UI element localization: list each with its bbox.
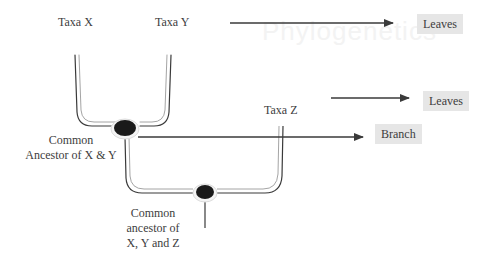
xy-ancestor-label: Common Ancestor of X & Y	[22, 133, 120, 163]
xy-clade-branches	[75, 55, 171, 126]
leaves-tag-mid: Leaves	[423, 91, 469, 111]
xyz-ancestor-label-line2: ancestor of	[118, 221, 188, 236]
taxa-x-label: Taxa X	[58, 15, 93, 30]
xy-to-xyz-branch	[125, 137, 193, 193]
xy-ancestor-label-line2: Ancestor of X & Y	[22, 148, 120, 163]
taxa-y-label: Taxa Y	[155, 15, 189, 30]
branch-tag: Branch	[375, 124, 422, 144]
leaves-tag-top: Leaves	[417, 14, 463, 34]
xyz-ancestor-label-line1: Common	[118, 206, 188, 221]
node-xyz-ancestor	[193, 184, 217, 202]
xy-ancestor-label-line1: Common	[22, 133, 120, 148]
xyz-ancestor-label-line3: X, Y and Z	[118, 236, 188, 251]
taxa-z-label: Taxa Z	[264, 103, 297, 118]
z-branch	[217, 126, 283, 193]
xyz-ancestor-label: Common ancestor of X, Y and Z	[118, 206, 188, 251]
